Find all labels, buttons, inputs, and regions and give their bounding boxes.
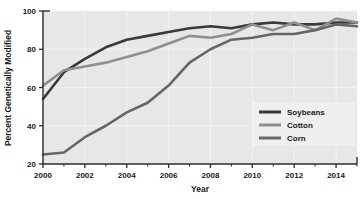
y-tick-label: 60 (27, 84, 36, 93)
x-tick-label: 2010 (243, 171, 261, 180)
legend-label-cotton: Cotton (287, 121, 313, 130)
y-axis-title: Percent Genetically Modified (3, 30, 13, 146)
x-tick-label: 2002 (76, 171, 94, 180)
y-tick-label: 80 (27, 45, 36, 54)
legend-label-corn: Corn (287, 134, 306, 143)
x-tick-label: 2006 (160, 171, 178, 180)
chart-container: 2040608010020002002200420062008201020122… (0, 0, 363, 199)
y-tick-label: 20 (27, 160, 36, 169)
y-tick-label: 100 (23, 7, 37, 16)
x-tick-label: 2004 (118, 171, 136, 180)
gm-crops-line-chart: 2040608010020002002200420062008201020122… (0, 0, 363, 199)
x-tick-label: 2012 (285, 171, 303, 180)
chart-legend: SoybeansCottonCorn (253, 102, 355, 146)
x-tick-label: 2000 (34, 171, 52, 180)
x-tick-label: 2008 (202, 171, 220, 180)
legend-label-soybeans: Soybeans (287, 108, 325, 117)
y-tick-label: 40 (27, 122, 36, 131)
x-tick-label: 2014 (327, 171, 345, 180)
x-axis-title: Year (191, 184, 210, 194)
